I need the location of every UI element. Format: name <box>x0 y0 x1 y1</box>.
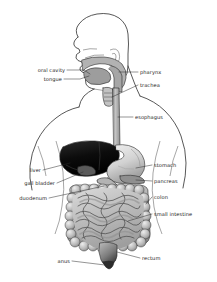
label-esophagus: esophagus <box>135 114 163 121</box>
torso-right-outline <box>140 96 186 188</box>
label-anus: anus <box>58 258 71 264</box>
leader-anus <box>72 261 105 265</box>
label-small-intestine: small intestine <box>154 211 192 217</box>
neck-back <box>128 66 140 96</box>
label-trachea: trachea <box>140 82 160 88</box>
leader-gall-bladder <box>57 172 83 183</box>
label-oral-cavity: oral cavity <box>38 67 65 74</box>
label-pharynx: pharynx <box>140 69 161 76</box>
esophagus-shape <box>113 88 120 148</box>
nasal-line <box>83 49 97 50</box>
esophagus-group <box>113 88 120 148</box>
digestive-system-diagram: oral cavity tongue pharynx trachea esoph… <box>0 0 217 282</box>
label-pancreas: pancreas <box>154 178 178 185</box>
hip-right-line <box>170 146 178 176</box>
label-liver: liver <box>30 167 42 173</box>
label-duodenum: duodenum <box>19 195 47 201</box>
leader-rectum <box>117 252 140 258</box>
rectum-group <box>99 242 117 269</box>
label-colon: colon <box>154 194 168 200</box>
flank-right-line <box>152 141 162 234</box>
chin-neck-front <box>79 89 94 107</box>
label-tongue: tongue <box>44 76 62 83</box>
label-rectum: rectum <box>142 255 160 261</box>
diagram-canvas: oral cavity tongue pharynx trachea esoph… <box>0 0 217 282</box>
label-stomach: stomach <box>154 162 176 168</box>
label-gall-bladder: gall bladder <box>24 180 56 187</box>
